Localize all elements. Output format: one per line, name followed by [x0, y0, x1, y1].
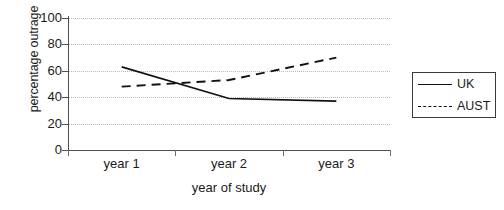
y-axis-tick-mark: [62, 44, 68, 45]
x-axis-tick-mark: [390, 150, 391, 156]
x-axis-title: year of study: [68, 180, 390, 195]
x-axis-tick-mark: [283, 150, 284, 156]
y-axis-tick-mark: [62, 124, 68, 125]
legend-entry-aust: AUST: [413, 95, 495, 118]
chart-legend: UK AUST: [412, 72, 496, 118]
y-axis-tick-mark: [62, 97, 68, 98]
x-axis-tick-label: year 3: [296, 156, 376, 171]
legend-label-uk: UK: [457, 77, 474, 92]
legend-label-aust: AUST: [457, 99, 490, 114]
x-axis-tick-label: year 1: [82, 156, 162, 171]
y-axis-tick-mark: [62, 71, 68, 72]
y-axis-tick-mark: [62, 18, 68, 19]
x-axis-tick-label: year 2: [189, 156, 269, 171]
line-chart-figure: percentage outrage 020406080100 year of …: [0, 0, 504, 210]
legend-swatch-solid-icon: [418, 84, 452, 85]
series-line-aust: [122, 58, 337, 87]
x-axis-tick-mark: [68, 150, 69, 156]
legend-entry-uk: UK: [413, 73, 495, 96]
legend-swatch-dashed-icon: [418, 106, 452, 107]
x-axis-tick-mark: [175, 150, 176, 156]
